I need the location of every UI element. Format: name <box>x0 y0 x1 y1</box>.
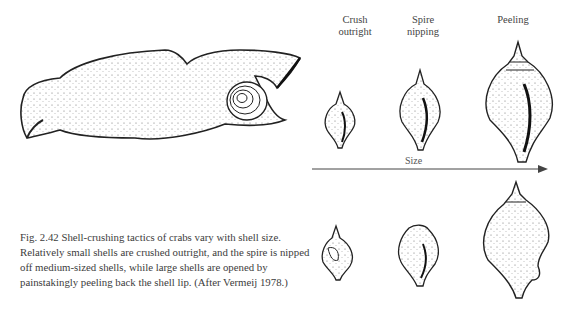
snail-in-claw <box>227 82 267 120</box>
shell-small-crushed <box>320 224 356 282</box>
crab-claw-illustration <box>15 38 305 148</box>
size-arrow <box>312 164 548 174</box>
shell-medium-top <box>396 68 444 152</box>
label-peeling: Peeling <box>488 14 538 26</box>
shell-small-top <box>322 90 358 150</box>
figure-caption: Fig. 2.42 Shell-crushing tactics of crab… <box>20 230 310 290</box>
shell-large-peeled <box>478 180 552 300</box>
shell-large-top <box>480 40 558 164</box>
shell-medium-nipped <box>395 222 441 288</box>
label-spire-nipping: Spire nipping <box>398 14 448 38</box>
label-crush-outright: Crush outright <box>330 14 380 38</box>
